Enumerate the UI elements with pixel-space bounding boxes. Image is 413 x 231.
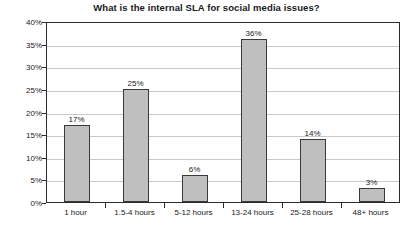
- x-axis-tick-mark: [105, 203, 106, 208]
- bar-slot: 6%: [165, 23, 224, 202]
- bar[interactable]: [123, 89, 149, 202]
- x-axis-tick-label: 5-12 hours: [174, 208, 212, 217]
- y-axis: 0%5%10%15%20%25%30%35%40%: [0, 22, 42, 203]
- bar-slot: 14%: [283, 23, 342, 202]
- bar[interactable]: [64, 125, 90, 202]
- x-axis-tick-label: 48+ hours: [353, 208, 389, 217]
- bar[interactable]: [241, 39, 267, 202]
- plot-area: 17%25%6%36%14%3%: [46, 22, 400, 203]
- bar-slot: 17%: [47, 23, 106, 202]
- bar-value-label: 14%: [304, 129, 320, 138]
- y-axis-tick-label: 40%: [2, 18, 42, 27]
- y-axis-tick-label: 5%: [2, 176, 42, 185]
- y-axis-tick-label: 0%: [2, 199, 42, 208]
- bar[interactable]: [300, 139, 326, 202]
- bar-value-label: 36%: [245, 29, 261, 38]
- y-axis-tick-label: 30%: [2, 63, 42, 72]
- bar[interactable]: [182, 175, 208, 202]
- x-axis-tick-label: 13-24 hours: [231, 208, 274, 217]
- bar-chart: What is the internal SLA for social medi…: [0, 0, 413, 231]
- y-axis-tick-mark: [42, 203, 46, 204]
- bar-value-label: 6%: [189, 165, 201, 174]
- x-axis-tick-label: 25-28 hours: [290, 208, 333, 217]
- y-axis-tick-label: 25%: [2, 85, 42, 94]
- y-axis-tick-label: 20%: [2, 108, 42, 117]
- bar-slot: 3%: [342, 23, 401, 202]
- x-axis-tick-mark: [164, 203, 165, 208]
- y-axis-tick-label: 35%: [2, 40, 42, 49]
- bar-slot: 25%: [106, 23, 165, 202]
- x-axis-tick-mark: [282, 203, 283, 208]
- bar-slot: 36%: [224, 23, 283, 202]
- y-axis-tick-label: 10%: [2, 153, 42, 162]
- chart-title: What is the internal SLA for social medi…: [0, 2, 413, 13]
- bar-value-label: 25%: [127, 79, 143, 88]
- bar[interactable]: [359, 188, 385, 202]
- x-axis-tick-label: 1 hour: [64, 208, 87, 217]
- bar-value-label: 3%: [366, 178, 378, 187]
- x-axis-tick-mark: [341, 203, 342, 208]
- x-axis-tick-mark: [223, 203, 224, 208]
- y-axis-tick-label: 15%: [2, 131, 42, 140]
- bar-value-label: 17%: [68, 115, 84, 124]
- x-axis-tick-label: 1.5-4 hours: [114, 208, 154, 217]
